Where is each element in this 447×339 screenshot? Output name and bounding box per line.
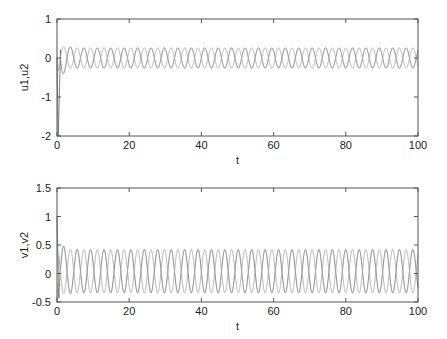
bottom-chart-svg: 020406080100-0.500.511.5tv1,v2 [0, 170, 447, 339]
bottom-xtick-label-20: 20 [123, 305, 135, 317]
bottom-ytick-label-1.5: 1.5 [36, 182, 51, 194]
top-xtick-label-80: 80 [340, 139, 352, 151]
bottom-xtick-label-80: 80 [340, 305, 352, 317]
top-xlabel: t [236, 154, 239, 166]
bottom-xtick-label-100: 100 [409, 305, 427, 317]
bottom-xtick-label-0: 0 [54, 305, 60, 317]
top-ytick-label-0: 0 [45, 52, 51, 64]
top-xtick-label-20: 20 [123, 139, 135, 151]
top-plot-box [57, 19, 418, 136]
top-xtick-label-60: 60 [267, 139, 279, 151]
top-ytick-label--2: -2 [41, 130, 51, 142]
bottom-ytick-label-0.5: 0.5 [36, 239, 51, 251]
top-ytick-label-1: 1 [45, 13, 51, 25]
top-chart-svg: 020406080100-2-101tu1,u2 [0, 0, 447, 170]
top-xtick-label-40: 40 [195, 139, 207, 151]
top-xtick-label-0: 0 [54, 139, 60, 151]
bottom-xtick-label-40: 40 [195, 305, 207, 317]
bottom-ytick-label-0: 0 [45, 268, 51, 280]
bottom-xlabel: t [236, 320, 239, 332]
bottom-ylabel: v1,v2 [18, 232, 30, 258]
top-series-u1 [57, 47, 418, 136]
top-ylabel: u1,u2 [18, 64, 30, 92]
chart-panel-bottom: 020406080100-0.500.511.5tv1,v2 [0, 170, 447, 339]
bottom-ytick-label-1: 1 [45, 211, 51, 223]
figure-canvas: 020406080100-2-101tu1,u2 020406080100-0.… [0, 0, 447, 339]
bottom-ytick-label--0.5: -0.5 [32, 296, 51, 308]
top-xtick-label-100: 100 [409, 139, 427, 151]
top-ytick-label--1: -1 [41, 91, 51, 103]
bottom-xtick-label-60: 60 [267, 305, 279, 317]
chart-panel-top: 020406080100-2-101tu1,u2 [0, 0, 447, 170]
